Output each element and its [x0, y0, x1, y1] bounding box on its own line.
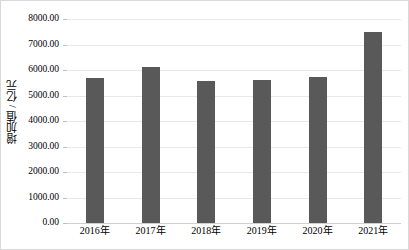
y-axis-tick-label: 2000.00: [7, 167, 59, 177]
x-axis-tick-label: 2018年: [191, 225, 221, 237]
bar: [364, 32, 382, 223]
y-axis-tick-label: 1000.00: [7, 193, 59, 203]
gridline: [67, 45, 401, 46]
gridline: [67, 223, 401, 224]
bar: [142, 67, 160, 223]
y-axis-tick-label: 4000.00: [7, 116, 59, 126]
bar: [197, 81, 215, 223]
gridline: [67, 121, 401, 122]
x-axis-tick-label: 2016年: [80, 225, 110, 237]
plot-area: [67, 19, 401, 223]
gridline: [67, 172, 401, 173]
bar: [86, 78, 104, 223]
x-axis-tick-labels: 2016年2017年2018年2019年2020年2021年: [67, 225, 401, 245]
y-axis-title-label: 增加值 / 亿元: [4, 80, 20, 144]
y-axis-tick-label: 3000.00: [7, 142, 59, 152]
x-axis-tick-label: 2019年: [247, 225, 277, 237]
bar: [309, 77, 327, 223]
gridline: [67, 70, 401, 71]
x-axis-tick-label: 2017年: [136, 225, 166, 237]
x-axis-tick-label: 2020年: [303, 225, 333, 237]
gridline: [67, 147, 401, 148]
gridline: [67, 96, 401, 97]
y-axis-title: 增加值 / 亿元: [1, 1, 23, 223]
x-axis-tick-label: 2021年: [358, 225, 388, 237]
bar: [253, 80, 271, 223]
y-axis-tick-label: 0.00: [7, 218, 59, 228]
y-axis-tick-label: 8000.00: [7, 14, 59, 24]
y-axis-tick-label: 7000.00: [7, 40, 59, 50]
gridline: [67, 198, 401, 199]
y-axis-tick-label: 5000.00: [7, 91, 59, 101]
gridline: [67, 19, 401, 20]
bar-chart-figure: 增加值 / 亿元 0.001000.002000.003000.004000.0…: [0, 0, 409, 250]
y-axis-tick-label: 6000.00: [7, 65, 59, 75]
